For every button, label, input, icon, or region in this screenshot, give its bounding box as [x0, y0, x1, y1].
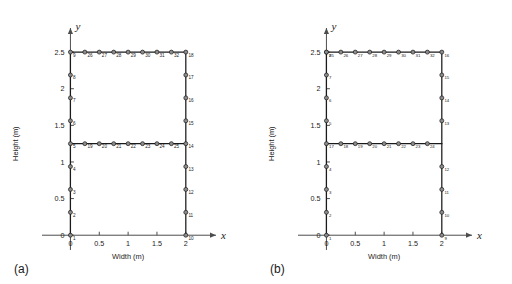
mesh-node[interactable]: [440, 96, 444, 100]
mesh-node[interactable]: [382, 142, 386, 146]
mesh-node[interactable]: [184, 119, 188, 123]
mesh-node[interactable]: [440, 165, 444, 169]
mesh-node[interactable]: [324, 233, 328, 237]
mesh-node-label: 24: [430, 144, 435, 149]
mesh-node[interactable]: [324, 73, 328, 77]
mesh-node[interactable]: [184, 50, 188, 54]
mesh-node[interactable]: [353, 142, 357, 146]
mesh-node[interactable]: [397, 50, 401, 54]
mesh-node-label: 3: [329, 190, 332, 195]
mesh-node[interactable]: [68, 142, 72, 146]
mesh-node-label: 19: [358, 144, 363, 149]
mesh-node[interactable]: [339, 50, 343, 54]
mesh-node[interactable]: [368, 50, 372, 54]
x-tick-label: 0.5: [94, 239, 104, 248]
mesh-node[interactable]: [382, 50, 386, 54]
mesh-node[interactable]: [324, 165, 328, 169]
mesh-node-label: 30: [145, 53, 151, 58]
mesh-node-label: 12: [188, 190, 194, 195]
mesh-nodes: 1234567891011121314151617181920212223242…: [324, 50, 449, 240]
mesh-node[interactable]: [324, 96, 328, 100]
mesh-node[interactable]: [68, 233, 72, 237]
x-axis-arrowhead: [466, 233, 472, 238]
mesh-node[interactable]: [68, 96, 72, 100]
mesh-node[interactable]: [425, 50, 429, 54]
mesh-node-label: 32: [430, 53, 435, 58]
x-axis-letter: x: [220, 229, 226, 241]
mesh-node[interactable]: [83, 50, 87, 54]
mesh-node[interactable]: [68, 119, 72, 123]
mesh-node-label: 27: [358, 53, 363, 58]
mesh-node[interactable]: [126, 142, 130, 146]
mesh-node[interactable]: [368, 142, 372, 146]
panel-b-tag: (b): [270, 262, 285, 276]
mesh-node-label: 32: [174, 53, 180, 58]
mesh-node-label: 7: [73, 98, 76, 103]
mesh-node[interactable]: [169, 50, 173, 54]
mesh-node[interactable]: [339, 142, 343, 146]
mesh-node-label: 26: [343, 53, 348, 58]
mesh-node[interactable]: [324, 210, 328, 214]
y-tick-label: 1.5: [54, 121, 64, 130]
mesh-nodes: 1234567891011121314151617181920212223242…: [68, 50, 194, 240]
mesh-node[interactable]: [324, 50, 328, 54]
mesh-node-label: 29: [131, 53, 137, 58]
mesh-node-label: 14: [188, 144, 194, 149]
mesh-node[interactable]: [440, 119, 444, 123]
mesh-node[interactable]: [68, 210, 72, 214]
mesh-node-label: 17: [329, 144, 334, 149]
mesh-node[interactable]: [97, 142, 101, 146]
mesh-node-label: 3: [73, 190, 76, 195]
mesh-node[interactable]: [353, 50, 357, 54]
mesh-node[interactable]: [440, 187, 444, 191]
mesh-node[interactable]: [184, 165, 188, 169]
mesh-node[interactable]: [112, 50, 116, 54]
y-tick-label: 0.5: [54, 194, 64, 203]
mesh-node[interactable]: [425, 142, 429, 146]
mesh-node[interactable]: [83, 142, 87, 146]
mesh-node-label: 13: [188, 167, 194, 172]
mesh-node[interactable]: [141, 50, 145, 54]
mesh-node-label: 21: [387, 144, 392, 149]
mesh-node[interactable]: [184, 233, 188, 237]
mesh-node[interactable]: [440, 210, 444, 214]
mesh-node[interactable]: [155, 50, 159, 54]
mesh-node[interactable]: [97, 50, 101, 54]
mesh-node[interactable]: [440, 233, 444, 237]
mesh-node[interactable]: [184, 187, 188, 191]
y-tick-label: 1: [60, 158, 64, 167]
mesh-node[interactable]: [397, 142, 401, 146]
mesh-node-label: 11: [444, 190, 449, 195]
mesh-node[interactable]: [440, 73, 444, 77]
mesh-node[interactable]: [324, 187, 328, 191]
x-tick-label: 2: [440, 239, 444, 248]
mesh-node[interactable]: [184, 142, 188, 146]
mesh-node[interactable]: [155, 142, 159, 146]
x-tick-label: 1: [126, 239, 130, 248]
mesh-node[interactable]: [440, 50, 444, 54]
mesh-node[interactable]: [184, 73, 188, 77]
mesh-node[interactable]: [68, 187, 72, 191]
mesh-node-label: 9: [73, 53, 76, 58]
mesh-node[interactable]: [324, 142, 328, 146]
mesh-node-label: 12: [444, 167, 449, 172]
mesh-node[interactable]: [112, 142, 116, 146]
mesh-node-label: 20: [102, 144, 108, 149]
x-axis-arrowhead: [210, 233, 216, 238]
mesh-node[interactable]: [68, 165, 72, 169]
y-axis-title: Height (m): [11, 126, 20, 161]
mesh-node[interactable]: [324, 119, 328, 123]
mesh-node[interactable]: [411, 142, 415, 146]
mesh-node[interactable]: [141, 142, 145, 146]
mesh-node-label: 6: [73, 121, 76, 126]
mesh-node-label: 5: [329, 121, 332, 126]
mesh-node[interactable]: [68, 50, 72, 54]
mesh-node[interactable]: [184, 96, 188, 100]
mesh-node[interactable]: [411, 50, 415, 54]
mesh-node[interactable]: [68, 73, 72, 77]
x-tick-label: 1.5: [152, 239, 162, 248]
mesh-node[interactable]: [169, 142, 173, 146]
mesh-node[interactable]: [184, 210, 188, 214]
mesh-node[interactable]: [126, 50, 130, 54]
x-axis-title: Width (m): [112, 252, 144, 261]
